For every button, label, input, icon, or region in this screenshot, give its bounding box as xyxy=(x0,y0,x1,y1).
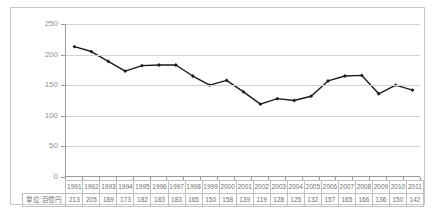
table-value-2005: 132 xyxy=(304,194,321,207)
table-value-2002: 119 xyxy=(253,194,270,207)
table-row-values: 単位:百億円 213205189173182183183165150158139… xyxy=(23,194,424,207)
y-tick-label-250: 250 xyxy=(45,20,58,28)
y-axis-ticks: 050100150200250 xyxy=(11,24,65,178)
table-year-2011: 2011 xyxy=(406,181,423,194)
table-year-2008: 2008 xyxy=(355,181,372,194)
gridline-100 xyxy=(66,116,420,117)
line-series xyxy=(66,24,421,177)
table-year-2004: 2004 xyxy=(287,181,304,194)
table-year-2007: 2007 xyxy=(338,181,355,194)
gridline-50 xyxy=(66,146,420,147)
data-point-1991 xyxy=(73,45,77,49)
table-year-1997: 1997 xyxy=(168,181,185,194)
chart-title xyxy=(10,0,425,3)
table-value-1997: 183 xyxy=(168,194,185,207)
gridline-150 xyxy=(66,85,420,86)
data-point-1995 xyxy=(140,64,144,68)
table-value-1993: 189 xyxy=(100,194,117,207)
table-value-2007: 165 xyxy=(338,194,355,207)
data-point-1996 xyxy=(157,63,161,67)
data-point-2011 xyxy=(411,88,415,92)
table-value-2003: 128 xyxy=(270,194,287,207)
data-table: 1991199219931994199519961997199819992000… xyxy=(22,180,424,207)
table-year-1998: 1998 xyxy=(185,181,202,194)
table-value-2004: 125 xyxy=(287,194,304,207)
table-value-2008: 166 xyxy=(355,194,372,207)
table-value-2006: 157 xyxy=(321,194,338,207)
table-year-2002: 2002 xyxy=(253,181,270,194)
table-value-1995: 182 xyxy=(134,194,151,207)
table-year-2005: 2005 xyxy=(304,181,321,194)
plot-area xyxy=(65,24,420,177)
table-value-2010: 150 xyxy=(389,194,406,207)
table-year-2003: 2003 xyxy=(270,181,287,194)
table-year-1994: 1994 xyxy=(117,181,134,194)
table-year-1999: 1999 xyxy=(202,181,219,194)
data-point-2004 xyxy=(292,99,296,103)
table-row-years: 1991199219931994199519961997199819992000… xyxy=(23,181,424,194)
table-value-1998: 165 xyxy=(185,194,202,207)
table-corner-cell xyxy=(23,181,66,194)
table-year-2006: 2006 xyxy=(321,181,338,194)
table-value-1996: 183 xyxy=(151,194,168,207)
table-value-1992: 205 xyxy=(83,194,100,207)
table-year-1993: 1993 xyxy=(100,181,117,194)
y-tick-label-50: 50 xyxy=(49,142,58,150)
table-year-2001: 2001 xyxy=(236,181,253,194)
table-value-2001: 139 xyxy=(236,194,253,207)
gridline-200 xyxy=(66,55,420,56)
table-year-1996: 1996 xyxy=(151,181,168,194)
table-unit-label: 単位:百億円 xyxy=(23,194,66,207)
table-value-1991: 213 xyxy=(66,194,83,207)
data-point-2003 xyxy=(275,97,279,101)
y-tick-label-100: 100 xyxy=(45,112,58,120)
table-year-2009: 2009 xyxy=(372,181,389,194)
table-year-2010: 2010 xyxy=(389,181,406,194)
table-value-2011: 142 xyxy=(406,194,423,207)
table-value-2009: 136 xyxy=(372,194,389,207)
data-point-2007 xyxy=(343,74,347,78)
table-year-1995: 1995 xyxy=(134,181,151,194)
table-value-1994: 173 xyxy=(117,194,134,207)
table-year-2000: 2000 xyxy=(219,181,236,194)
table-value-1999: 150 xyxy=(202,194,219,207)
table-year-1991: 1991 xyxy=(66,181,83,194)
table-value-2000: 158 xyxy=(219,194,236,207)
chart-frame: 050100150200250 199119921993199419951996… xyxy=(10,7,425,205)
y-tick-label-150: 150 xyxy=(45,81,58,89)
table-year-1992: 1992 xyxy=(83,181,100,194)
y-tick-label-200: 200 xyxy=(45,51,58,59)
gridline-250 xyxy=(66,24,420,25)
